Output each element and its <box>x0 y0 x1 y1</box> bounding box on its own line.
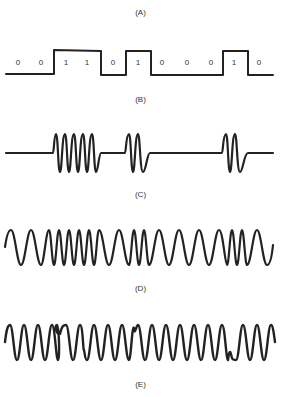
panel-label-e: (E) <box>0 380 281 389</box>
square-wave-b <box>6 50 273 75</box>
ask-wave-c <box>6 134 273 172</box>
fsk-wave-d <box>5 230 273 265</box>
panel-label-c: (C) <box>0 190 281 199</box>
panel-label-d: (D) <box>0 284 281 293</box>
psk-wave-e <box>5 325 275 360</box>
panel-label-b: (B) <box>0 95 281 104</box>
